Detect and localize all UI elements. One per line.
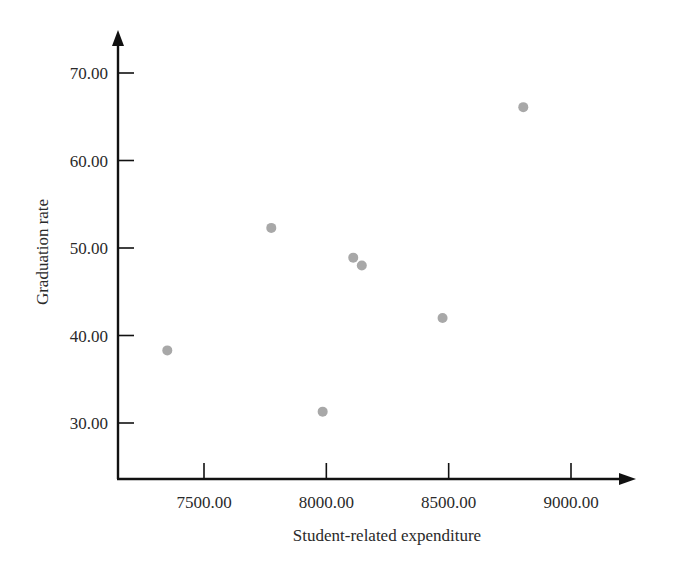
data-point [357,261,367,271]
x-tick-label: 8500.00 [421,493,476,512]
y-ticks: 30.0040.0050.0060.0070.00 [70,64,134,433]
data-point [318,407,328,417]
y-tick-label: 50.00 [70,239,108,258]
data-point [518,102,528,112]
data-point [162,345,172,355]
y-axis [112,30,124,479]
x-ticks: 7500.008000.008500.009000.00 [176,463,598,512]
data-point [266,223,276,233]
y-tick-label: 40.00 [70,327,108,346]
x-axis-label: Student-related expenditure [293,526,481,545]
data-point [438,313,448,323]
y-tick-label: 60.00 [70,152,108,171]
x-tick-label: 7500.00 [176,493,231,512]
data-point [348,253,358,263]
y-tick-label: 70.00 [70,64,108,83]
data-points [162,102,528,417]
y-axis-arrow-icon [112,30,124,46]
x-tick-label: 8000.00 [299,493,354,512]
x-axis [117,473,636,485]
x-axis-arrow-icon [619,473,636,485]
y-axis-label: Graduation rate [33,199,52,305]
x-tick-label: 9000.00 [543,493,598,512]
y-tick-label: 30.00 [70,414,108,433]
scatter-chart: 30.0040.0050.0060.0070.00 7500.008000.00… [0,0,678,563]
